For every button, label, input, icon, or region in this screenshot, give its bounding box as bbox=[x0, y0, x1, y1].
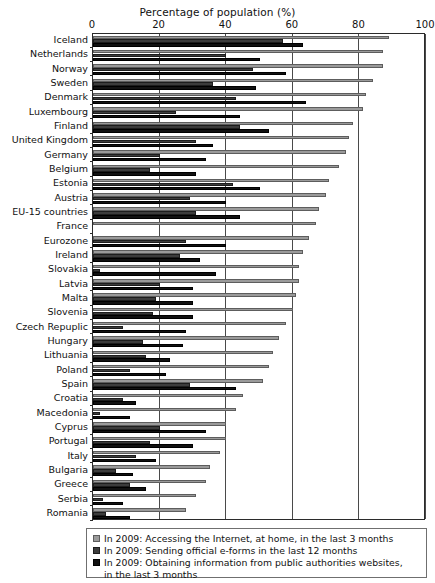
x-tick-label-80: 80 bbox=[352, 19, 365, 30]
bar-italy-series-2 bbox=[93, 459, 156, 462]
bar-group bbox=[93, 163, 424, 177]
bar-group bbox=[93, 464, 424, 478]
bar-denmark-series-2 bbox=[93, 101, 306, 104]
y-label-portugal: Portugal bbox=[49, 436, 88, 446]
bar-austria-series-2 bbox=[93, 201, 226, 204]
bar-group bbox=[93, 335, 424, 349]
y-label-hungary: Hungary bbox=[47, 336, 88, 346]
bar-group bbox=[93, 48, 424, 62]
bar-group bbox=[93, 306, 424, 320]
y-label-romania: Romania bbox=[46, 508, 88, 518]
bar-group bbox=[93, 91, 424, 105]
x-tick-label-40: 40 bbox=[219, 19, 232, 30]
bar-iceland-series-2 bbox=[93, 43, 303, 46]
bar-group bbox=[93, 134, 424, 148]
bar-lithuania-series-2 bbox=[93, 358, 170, 361]
legend-swatch-icon-2 bbox=[93, 559, 100, 566]
y-label-slovenia: Slovenia bbox=[48, 307, 88, 317]
bar-hungary-series-2 bbox=[93, 344, 183, 347]
bar-greece-series-2 bbox=[93, 487, 146, 490]
bar-group bbox=[93, 320, 424, 334]
legend-label-1: In 2009: Sending official e-forms in the… bbox=[104, 545, 357, 556]
y-label-malta: Malta bbox=[62, 293, 88, 303]
y-label-bulgaria: Bulgaria bbox=[49, 465, 88, 475]
y-label-estonia: Estonia bbox=[53, 178, 88, 188]
bar-group bbox=[93, 478, 424, 492]
y-label-germany: Germany bbox=[44, 150, 88, 160]
y-label-italy: Italy bbox=[67, 451, 88, 461]
legend-item-0[interactable]: In 2009: Accessing the Internet, at home… bbox=[93, 533, 421, 544]
bar-malta-series-2 bbox=[93, 301, 193, 304]
bar-poland-series-2 bbox=[93, 373, 166, 376]
legend-item-1[interactable]: In 2009: Sending official e-forms in the… bbox=[93, 545, 421, 556]
legend-label-2-line2: in the last 3 months bbox=[104, 569, 403, 580]
bar-group bbox=[93, 449, 424, 463]
bar-serbia-series-2 bbox=[93, 502, 123, 505]
bar-spain-series-2 bbox=[93, 387, 236, 390]
bar-germany-series-2 bbox=[93, 158, 206, 161]
y-label-luxembourg: Luxembourg bbox=[29, 107, 88, 117]
gridline-100 bbox=[425, 34, 426, 519]
y-label-latvia: Latvia bbox=[59, 279, 88, 289]
bar-group bbox=[93, 249, 424, 263]
bar-belgium-series-2 bbox=[93, 172, 196, 175]
chart-figure: Percentage of population (%) 02040608010… bbox=[0, 0, 435, 583]
plot-area bbox=[92, 33, 425, 520]
bar-netherlands-series-2 bbox=[93, 58, 260, 61]
bar-slovakia-series-2 bbox=[93, 272, 216, 275]
bar-latvia-series-2 bbox=[93, 287, 193, 290]
y-label-denmark: Denmark bbox=[44, 92, 88, 102]
legend-swatch-icon-1 bbox=[93, 547, 100, 554]
bar-slovenia-series-2 bbox=[93, 315, 193, 318]
legend-item-2[interactable]: In 2009: Obtaining information from publ… bbox=[93, 557, 421, 579]
chart-title: Percentage of population (%) bbox=[0, 6, 435, 18]
bar-romania-series-2 bbox=[93, 516, 130, 519]
y-label-sweden: Sweden bbox=[50, 78, 88, 88]
y-label-greece: Greece bbox=[54, 479, 88, 489]
bar-group bbox=[93, 235, 424, 249]
bar-group bbox=[93, 177, 424, 191]
y-label-croatia: Croatia bbox=[54, 393, 88, 403]
bar-group bbox=[93, 120, 424, 134]
y-label-netherlands: Netherlands bbox=[30, 49, 88, 59]
y-label-finland: Finland bbox=[54, 121, 88, 131]
y-label-iceland: Iceland bbox=[54, 35, 88, 45]
y-label-belgium: Belgium bbox=[49, 164, 88, 174]
bar-group bbox=[93, 220, 424, 234]
bar-macedonia-series-2 bbox=[93, 416, 130, 419]
bar-bulgaria-series-2 bbox=[93, 473, 133, 476]
bar-group bbox=[93, 278, 424, 292]
x-tick-label-60: 60 bbox=[285, 19, 298, 30]
bar-serbia-series-0 bbox=[93, 494, 196, 497]
y-label-norway: Norway bbox=[52, 64, 88, 74]
bar-rows bbox=[93, 34, 424, 519]
x-tick-label-100: 100 bbox=[415, 19, 434, 30]
bar-group bbox=[93, 406, 424, 420]
bar-eu-15-countries-series-2 bbox=[93, 215, 240, 218]
bar-romania-series-0 bbox=[93, 508, 186, 511]
y-label-poland: Poland bbox=[56, 365, 88, 375]
bar-ireland-series-2 bbox=[93, 258, 200, 261]
bar-group bbox=[93, 435, 424, 449]
x-tick-label-20: 20 bbox=[152, 19, 165, 30]
bar-group bbox=[93, 149, 424, 163]
y-label-eurozone: Eurozone bbox=[44, 236, 88, 246]
x-tick-label-0: 0 bbox=[89, 19, 95, 30]
y-label-united-kingdom: United Kingdom bbox=[12, 135, 88, 145]
bar-group bbox=[93, 507, 424, 521]
bar-cyprus-series-2 bbox=[93, 430, 206, 433]
y-label-czech-repuplic: Czech Repuplic bbox=[16, 322, 88, 332]
bar-group bbox=[93, 34, 424, 48]
bar-norway-series-2 bbox=[93, 72, 286, 75]
bar-group bbox=[93, 292, 424, 306]
legend-label-0: In 2009: Accessing the Internet, at home… bbox=[104, 533, 393, 544]
bar-finland-series-2 bbox=[93, 129, 269, 132]
bar-group bbox=[93, 263, 424, 277]
bar-united-kingdom-series-2 bbox=[93, 144, 213, 147]
bar-group bbox=[93, 492, 424, 506]
bar-group bbox=[93, 378, 424, 392]
bar-macedonia-series-0 bbox=[93, 408, 236, 411]
bar-portugal-series-2 bbox=[93, 444, 193, 447]
y-label-macedonia: Macedonia bbox=[37, 408, 88, 418]
bar-group bbox=[93, 392, 424, 406]
